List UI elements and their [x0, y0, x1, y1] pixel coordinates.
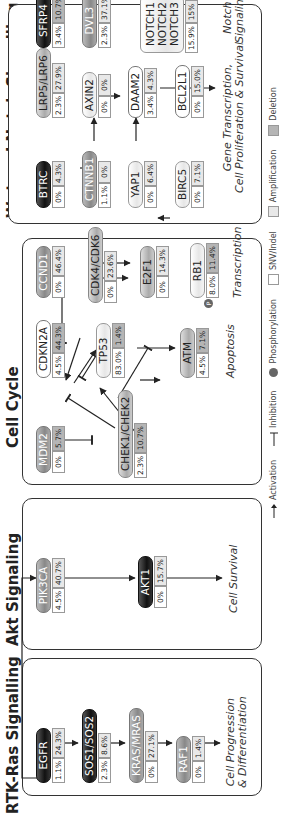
cnv-value: 1.4% — [112, 323, 125, 348]
snv-value: 0% — [52, 276, 65, 298]
gene-label: EGFR — [36, 728, 51, 783]
snv-swatch — [268, 274, 279, 285]
snv-value: 0% — [52, 186, 65, 208]
activation-arrow-icon — [271, 504, 277, 518]
snv-value: 4.5% — [52, 588, 65, 613]
node-chek1-chek2: CHEK1/CHEK2 2.3%10.7% — [118, 390, 147, 478]
cnv-value: 5.7% — [52, 426, 65, 451]
node-rb1: RB1 8.0%11.4% P — [190, 243, 219, 298]
section-title-cell-cycle: Cell Cycle — [4, 366, 22, 448]
cnv-value: 44.3% — [52, 323, 65, 353]
node-dvl3: DVL3 2.3%37.1% — [82, 0, 111, 48]
cnv-value: 7.1% — [196, 328, 209, 353]
cnv-value: 23.6% — [104, 251, 117, 281]
snv-value: 1.1% — [98, 183, 111, 208]
cnv-value: 11.4% — [206, 243, 219, 273]
snv-value: 2.3% — [134, 453, 147, 478]
legend-deletion: Deletion — [268, 87, 279, 136]
cnv-value: 27.9% — [52, 63, 65, 93]
gene-label: MDM2 — [36, 426, 51, 473]
cnv-value: 15.0% — [191, 66, 204, 96]
snv-value: 4.5% — [196, 353, 209, 378]
node-cdkn2a: CDKN2A 4.5%44.3% — [36, 320, 65, 378]
snv-value: 0% — [156, 276, 169, 298]
node-axin2: AXIN2 0%0% — [82, 72, 111, 118]
gene-label: DAAM2 — [128, 66, 143, 118]
gene-label: BCL2L1 — [175, 65, 190, 118]
node-cdk4-cdk6: CDK4/CDK6 0%23.6% — [88, 227, 117, 303]
cnv-value: 10.7% — [134, 423, 147, 453]
gene-label: NOTCH1 NOTCH2 NOTCH3 — [140, 0, 184, 53]
node-bcl2l1: BCL2L1 0%15.0% — [175, 65, 204, 118]
gene-label: DVL3 — [82, 0, 97, 48]
snv-value: 0% — [191, 96, 204, 118]
gene-label: ATM — [180, 328, 195, 378]
inhibition-bar-icon — [270, 432, 278, 446]
gene-label: AXIN2 — [82, 72, 97, 118]
cnv-value: 0% — [98, 161, 111, 183]
pathway-diagram: RTK-Ras Signalling Akt Signaling Cell Cy… — [0, 0, 290, 818]
cnv-value: 14.3% — [156, 246, 169, 276]
gene-label: PIK3CA — [36, 558, 51, 613]
outcome-transcription: Transcription — [232, 226, 244, 298]
gene-label: SFRP4 — [36, 0, 51, 48]
amplification-swatch — [268, 206, 279, 217]
node-pik3ca: PIK3CA 4.5%40.7% — [36, 558, 65, 613]
section-title-rtk: RTK-Ras Signalling — [4, 656, 22, 814]
cnv-value: 6.4% — [144, 161, 157, 186]
node-ctnnb1: CTNNB1 1.1%0% — [82, 151, 111, 208]
gene-label: CDKN2A — [36, 320, 51, 378]
section-title-akt: Akt Signaling — [4, 533, 22, 646]
gene-label: BTRC — [36, 161, 51, 208]
gene-label: CHEK1/CHEK2 — [118, 390, 133, 478]
snv-value: 0% — [144, 186, 157, 208]
snv-value: 2.3% — [52, 93, 65, 118]
snv-value: 15.9% — [185, 23, 198, 53]
phosphorylation-icon — [269, 368, 278, 377]
node-btrc: BTRC 0%4.3% — [36, 161, 65, 208]
node-birc5: BIRC5 0%7.1% — [175, 161, 204, 208]
outcome-notch: Notch Signaling — [222, 0, 246, 43]
gene-label: BIRC5 — [175, 161, 190, 208]
node-raf1: RAF1 0%1.4% — [176, 736, 205, 783]
snv-value: 3.4% — [144, 93, 157, 118]
snv-value: 0% — [145, 761, 158, 783]
node-akt1: AKT1 0%15.7% — [138, 556, 167, 608]
node-yap1: YAP1 0%6.4% — [128, 161, 157, 208]
gene-label: RAF1 — [176, 736, 191, 783]
cnv-value: 4.3% — [52, 161, 65, 186]
outcome-apoptosis: Apoptosis — [225, 324, 237, 378]
cnv-value: 37.1% — [98, 0, 111, 23]
deletion-swatch — [268, 125, 279, 136]
snv-value: 0% — [192, 761, 205, 783]
cnv-value: 15.7% — [154, 556, 167, 586]
snv-value: 0% — [98, 96, 111, 118]
legend-snv: SNV/Indel — [268, 231, 279, 285]
node-tp53: TP53 83.0%1.4% — [96, 323, 125, 378]
gene-label: YAP1 — [128, 161, 143, 208]
node-egfr: EGFR 1.1%24.3% — [36, 728, 65, 783]
snv-value: 0% — [191, 186, 204, 208]
node-e2f1: E2F1 0%14.3% — [140, 246, 169, 298]
legend-inhibition: Inhibition — [269, 391, 278, 446]
snv-value: 0% — [52, 451, 65, 473]
gene-label: SOS1/SOS2 — [82, 709, 97, 783]
cnv-value: 10.7% — [52, 0, 65, 23]
legend-phosphorylation: Phosphorylation — [269, 299, 278, 376]
node-notch: NOTCH1 NOTCH2 NOTCH3 15.9%15% — [140, 0, 198, 53]
snv-value: 0% — [154, 586, 167, 608]
cnv-value: 40.7% — [52, 558, 65, 588]
node-daam2: DAAM2 3.4%4.3% — [128, 66, 157, 118]
legend-activation: Activation — [269, 460, 278, 518]
node-ccnd1: CCND1 0%46.4% — [36, 246, 65, 298]
cnv-value: 0% — [98, 74, 111, 96]
node-atm: ATM 4.5%7.1% — [180, 328, 209, 378]
snv-value: 83.0% — [112, 348, 125, 378]
gene-label: TP53 — [96, 323, 111, 378]
cnv-value: 27.1% — [145, 731, 158, 761]
phosphorylation-icon: P — [204, 299, 213, 308]
outcome-rtk: Cell Progression & Differentiation — [225, 696, 249, 788]
gene-label: CDK4/CDK6 — [88, 227, 103, 303]
gene-label: KRAS/MRAS — [129, 708, 144, 783]
gene-label: E2F1 — [140, 246, 155, 298]
